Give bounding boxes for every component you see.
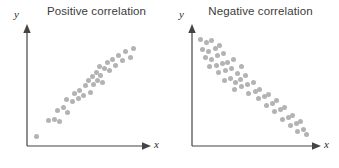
scatter-point — [95, 78, 100, 83]
positive-x-axis-label: x — [154, 138, 159, 150]
scatter-point — [61, 105, 66, 110]
panel-positive-correlation: Positive correlation y x — [0, 0, 169, 168]
scatter-point — [301, 127, 306, 132]
scatter-point — [203, 55, 208, 60]
negative-x-axis-label: x — [324, 138, 329, 150]
scatter-point — [65, 110, 70, 115]
positive-y-axis-label: y — [14, 8, 19, 20]
scatter-point — [128, 55, 133, 60]
scatter-point — [83, 83, 88, 88]
positive-x-axis-arrowhead — [142, 142, 151, 149]
scatter-point — [251, 80, 256, 85]
scatter-point — [232, 87, 237, 92]
scatter-point — [110, 57, 115, 62]
scatter-point — [55, 108, 60, 113]
correlation-figure: Positive correlation y x Negative correl… — [0, 0, 339, 168]
scatter-point — [206, 49, 211, 54]
scatter-point — [222, 78, 227, 83]
scatter-point — [220, 61, 225, 66]
scatter-point — [257, 87, 262, 92]
scatter-point — [280, 117, 285, 122]
scatter-point — [264, 103, 269, 108]
scatter-point — [86, 78, 91, 83]
scatter-point — [76, 96, 81, 101]
scatter-point — [120, 58, 125, 63]
scatter-point — [246, 91, 251, 96]
scatter-point — [198, 37, 203, 42]
scatter-point — [238, 77, 243, 82]
scatter-point — [64, 97, 69, 102]
scatter-point — [72, 91, 77, 96]
scatter-point — [105, 60, 110, 65]
scatter-point — [88, 90, 93, 95]
scatter-point — [116, 53, 121, 58]
negative-y-axis-arrowhead — [188, 24, 195, 33]
scatter-point — [77, 88, 82, 93]
scatter-point — [304, 132, 309, 137]
scatter-point — [221, 51, 226, 56]
scatter-point — [229, 66, 234, 71]
scatter-point — [204, 40, 209, 45]
scatter-point — [214, 63, 219, 68]
scatter-point — [290, 113, 295, 118]
scatter-point — [98, 73, 103, 78]
negative-x-axis-arrowhead — [312, 142, 321, 149]
negative-y-axis-label: y — [179, 8, 184, 20]
positive-y-axis-arrowhead — [23, 24, 30, 33]
scatter-point — [243, 73, 248, 78]
scatter-point — [239, 64, 244, 69]
scatter-point — [200, 47, 205, 52]
scatter-point — [228, 76, 233, 81]
panel-negative-correlation: Negative correlation y x — [170, 0, 339, 168]
scatter-point — [295, 129, 300, 134]
scatter-point — [52, 117, 57, 122]
